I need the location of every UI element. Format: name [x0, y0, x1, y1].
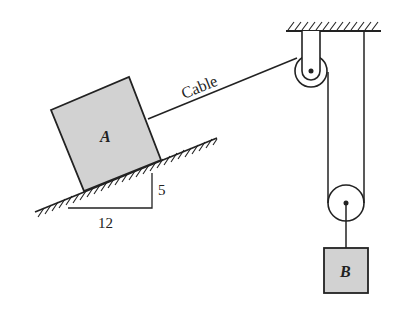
fixed-pulley	[295, 31, 327, 87]
pulley-rope	[328, 31, 364, 203]
ceiling-support	[286, 22, 381, 31]
cable: Cable	[148, 58, 297, 119]
slope-rise-label: 5	[158, 182, 166, 198]
block-b-label: B	[339, 263, 351, 280]
block-a: A	[51, 77, 161, 191]
movable-pulley	[328, 185, 364, 248]
diagram-canvas: 5 12 A Cable	[0, 0, 395, 309]
block-a-label: A	[99, 128, 111, 145]
slope-run-label: 12	[98, 215, 113, 231]
fixed-pulley-axle	[309, 69, 314, 74]
block-b: B	[324, 248, 368, 293]
